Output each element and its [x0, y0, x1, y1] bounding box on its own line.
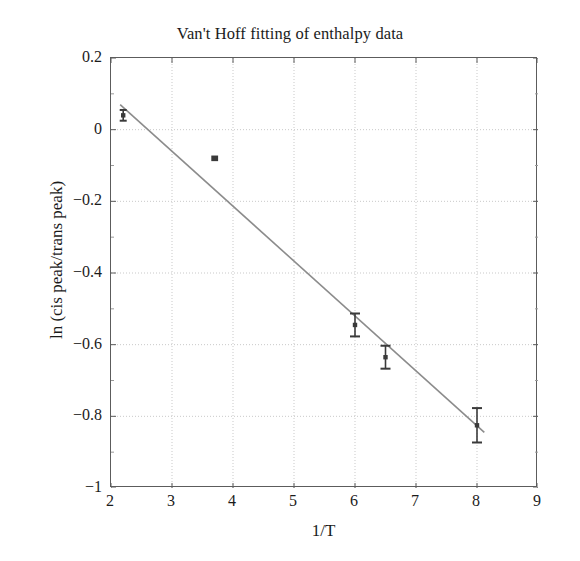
- x-tick-label: 3: [151, 492, 191, 510]
- plot-svg: [111, 58, 538, 488]
- chart-title: Van't Hoff fitting of enthalpy data: [0, 24, 580, 44]
- x-axis-tick-labels: 23456789: [110, 492, 537, 518]
- x-tick-label: 7: [395, 492, 435, 510]
- x-tick-label: 6: [334, 492, 374, 510]
- vant-hoff-chart-figure: Van't Hoff fitting of enthalpy data 0.20…: [0, 0, 580, 561]
- x-tick-label: 5: [273, 492, 313, 510]
- data-points-with-error-bars: [120, 110, 482, 443]
- x-tick-label: 9: [517, 492, 557, 510]
- x-tick-label: 4: [212, 492, 252, 510]
- x-axis-label: 1/T: [110, 521, 537, 541]
- plot-area: [110, 57, 537, 487]
- x-tick-label: 2: [90, 492, 130, 510]
- horizontal-gridlines: [111, 130, 538, 417]
- x-tick-label: 8: [456, 492, 496, 510]
- y-tick-label: 0.2: [52, 48, 102, 66]
- fit-line: [120, 105, 484, 433]
- y-axis-label: ln (cis peak/trans peak): [47, 110, 67, 410]
